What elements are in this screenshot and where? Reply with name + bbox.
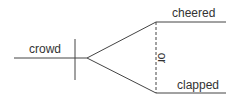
conjunction-word: or: [156, 53, 168, 64]
subject-word: crowd: [29, 43, 61, 55]
sentence-diagram: crowd cheered clapped or: [0, 0, 240, 101]
fork-lower-line: [87, 58, 156, 93]
predicate-lower-word: clapped: [177, 79, 219, 91]
fork-upper-line: [87, 22, 156, 58]
predicate-upper-word: cheered: [172, 7, 215, 19]
